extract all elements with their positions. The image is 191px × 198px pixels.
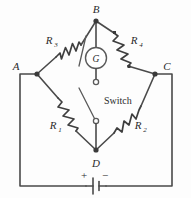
node-dot-a (34, 71, 39, 76)
switch-label: Switch (104, 95, 132, 106)
resistor-r4-terminal-top (113, 31, 116, 34)
resistor-label-r3-sub: 3 (53, 41, 58, 49)
circuit-diagram-figure: G + − A B C D (0, 0, 191, 198)
resistor-label-r4-base: R (130, 34, 138, 46)
wire-a-to-r1 (37, 74, 58, 98)
node-dot-d (93, 147, 98, 152)
battery-symbol: + − (81, 169, 108, 194)
battery-minus-label: − (102, 169, 108, 181)
resistor-label-r1-base: R (49, 119, 57, 131)
resistor-label-r2-sub: 2 (143, 126, 147, 134)
branch-d-c (96, 74, 155, 150)
wire-a-to-r3 (37, 57, 56, 74)
resistor-label-r2-base: R (134, 119, 142, 131)
resistor-label-r4-sub: 4 (139, 41, 143, 49)
node-dot-b (93, 18, 98, 23)
switch-terminal-top[interactable] (93, 79, 98, 84)
resistor-label-r3: R 3 (45, 34, 59, 49)
wire-d-to-r2 (96, 133, 114, 150)
wire-r2-to-c (141, 74, 155, 106)
node-label-a: A (12, 60, 20, 72)
resistor-label-r3-base: R (45, 34, 53, 46)
resistor-label-r4: R 4 (130, 34, 144, 49)
battery-plus-label: + (81, 169, 87, 181)
resistor-r4-zigzag (113, 33, 131, 66)
wire-r4-to-c (128, 66, 155, 74)
branch-a-d (37, 74, 96, 150)
resistor-r4-terminal-bottom (128, 65, 131, 68)
resistor-label-r1: R 1 (49, 119, 62, 134)
switch-lever[interactable] (79, 88, 95, 120)
galvanometer-label: G (93, 54, 100, 64)
node-label-d: D (91, 157, 100, 169)
node-label-c: C (163, 60, 171, 72)
node-label-b: B (93, 3, 100, 15)
resistor-label-r2: R 2 (134, 119, 148, 134)
resistor-r3-variable-arrow (79, 36, 86, 66)
circuit-svg: G + − A B C D (0, 0, 191, 198)
wire-b-to-r4 (96, 21, 114, 33)
node-dot-c (152, 71, 157, 76)
wire-r3-to-b (81, 21, 96, 45)
resistor-label-r1-sub: 1 (58, 126, 62, 134)
branch-b-c (96, 21, 155, 74)
resistor-r3-zigzag (56, 42, 81, 59)
branch-a-b (37, 21, 96, 74)
wire-r1-to-d (76, 131, 96, 150)
